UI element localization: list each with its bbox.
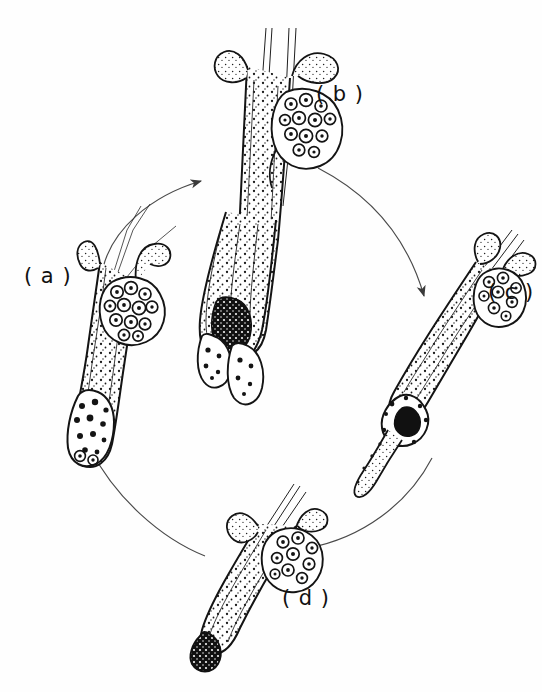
arrow-b-to-c [318, 168, 424, 296]
arrow-d-to-a [91, 450, 205, 556]
sebaceous-gland-d [262, 528, 323, 592]
stage-label-b: ( b ) [316, 82, 364, 106]
stage-label-a: ( a ) [24, 264, 72, 288]
stage-label-d: ( d ) [282, 586, 330, 610]
figure-drawing [0, 0, 542, 692]
follicle-cycle-figure: ( a ) ( b ) ( c ) ( d ) [0, 0, 542, 692]
follicle-stage-d [190, 484, 327, 672]
hair-bulb-b [198, 212, 276, 404]
sebaceous-gland-a [100, 277, 165, 345]
epithelial-strand-c [354, 430, 402, 497]
follicle-stage-a [67, 204, 176, 467]
stage-label-c: ( c ) [488, 280, 534, 304]
follicle-stage-c [354, 230, 535, 497]
